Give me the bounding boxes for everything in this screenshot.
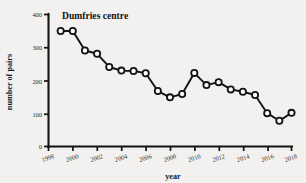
x-axis-title: year	[165, 172, 181, 181]
data-point-marker	[191, 70, 197, 76]
data-point-marker	[288, 110, 294, 116]
data-point-marker	[155, 88, 161, 94]
y-tick-label-300: 300	[32, 44, 42, 51]
data-point-marker	[228, 86, 234, 92]
data-point-marker	[167, 94, 173, 100]
data-point-marker	[70, 28, 76, 34]
data-point-marker	[240, 89, 246, 95]
y-tick-label-100: 100	[32, 111, 42, 118]
y-tick-label-200: 200	[32, 78, 42, 85]
data-point-marker	[82, 47, 88, 53]
y-axis-title: number of pairs	[5, 54, 14, 110]
data-point-marker	[276, 118, 282, 124]
chart-container: 400 300 200 100 0 1998 2000 2002 2004	[0, 0, 306, 183]
data-point-marker	[106, 64, 112, 70]
data-point-marker	[252, 92, 258, 98]
data-point-marker	[94, 51, 100, 57]
data-point-marker	[118, 68, 124, 74]
chart-title: Dumfries centre	[62, 10, 129, 21]
data-point-marker	[179, 91, 185, 97]
line-chart: 400 300 200 100 0 1998 2000 2002 2004	[0, 0, 306, 183]
data-point-marker	[58, 28, 64, 34]
y-tick-label-400: 400	[32, 11, 42, 18]
data-point-marker	[216, 79, 222, 85]
data-point-marker	[130, 68, 136, 74]
data-point-marker	[264, 110, 270, 116]
data-point-marker	[143, 70, 149, 76]
y-tick-label-0: 0	[39, 143, 42, 150]
data-point-marker	[203, 82, 209, 88]
